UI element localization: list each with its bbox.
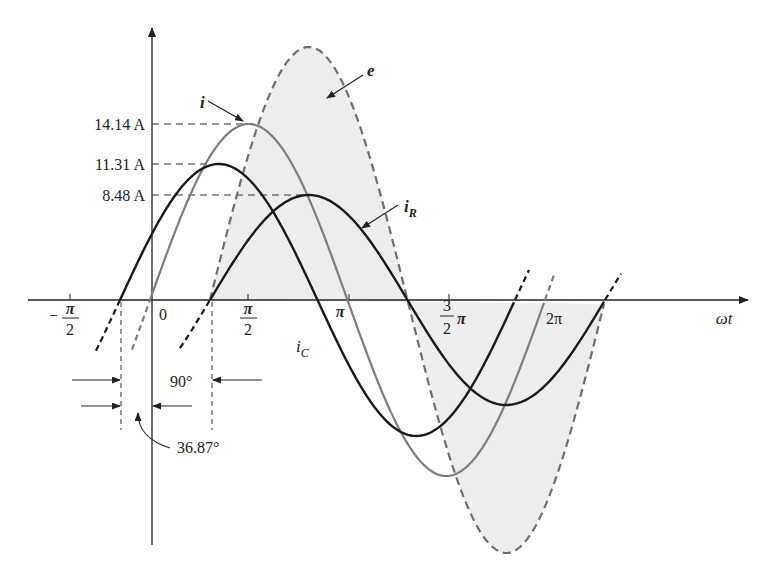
phase-annotations: 90° 36.87°	[72, 302, 262, 456]
svg-text:2: 2	[443, 320, 451, 337]
svg-text:2: 2	[66, 321, 74, 338]
amplitude-label-i: 14.14 A	[94, 116, 145, 133]
x-axis-label: ωt	[716, 309, 734, 328]
amplitude-label-iC: 11.31 A	[95, 156, 146, 173]
svg-text:0: 0	[159, 306, 167, 323]
svg-text:π: π	[244, 300, 254, 317]
svg-text:2π: 2π	[546, 310, 562, 327]
svg-text:−: −	[49, 307, 58, 324]
svg-text:3: 3	[443, 297, 451, 314]
leader-arrow-i	[208, 101, 243, 121]
amplitude-label-iR: 8.48 A	[102, 187, 145, 204]
svg-text:π: π	[66, 300, 76, 317]
svg-text:π: π	[457, 310, 467, 327]
label-i: i	[200, 93, 205, 112]
label-90deg: 90°	[170, 373, 192, 390]
label-e: e	[367, 61, 375, 80]
label-36-87deg: 36.87°	[177, 439, 219, 456]
label-iC: iC	[296, 337, 310, 360]
curved-arrow-3687	[138, 413, 170, 448]
label-iR: iR	[404, 197, 417, 220]
phasor-waveform-diagram: 14.14 A 11.31 A 8.48 A i e iR iC − π 2 0…	[0, 0, 769, 569]
svg-text:2: 2	[244, 321, 252, 338]
svg-text:π: π	[336, 303, 346, 320]
